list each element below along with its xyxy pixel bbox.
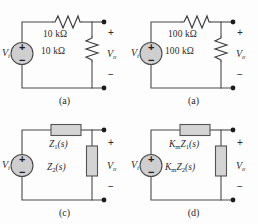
- source-minus-c: −: [19, 167, 25, 178]
- source-label-a: Vi: [2, 48, 10, 58]
- output-plus-a: +: [108, 28, 114, 38]
- output-plus-b: +: [237, 28, 243, 38]
- series-resistor-label-b: 100 kΩ: [168, 30, 197, 40]
- output-minus-b: −: [237, 70, 243, 80]
- source-minus-b: −: [148, 55, 154, 66]
- caption-d: (d): [129, 207, 258, 218]
- caption-b: (a): [129, 95, 258, 106]
- circuit-diagram-b: Vi + − 100 kΩ 100 kΩ + Vo − (a): [129, 0, 258, 112]
- source-plus-d: +: [148, 154, 154, 165]
- circuit-diagram-c: Vi + − Z1(s) Z2(s) + Vo − (c): [0, 112, 129, 224]
- output-minus-c: −: [108, 182, 114, 192]
- circuit-diagram-a: Vi + − 10 kΩ 10 kΩ + Vo − (a): [0, 0, 129, 112]
- source-plus-c: +: [19, 154, 25, 165]
- source-label-c: Vi: [2, 160, 10, 170]
- output-plus-d: +: [237, 138, 243, 148]
- output-minus-d: −: [237, 182, 243, 192]
- output-label-a: Vo: [107, 49, 116, 59]
- source-label-b: Vi: [131, 48, 139, 58]
- output-label-b: Vo: [236, 49, 245, 59]
- series-resistor-label-a: 10 kΩ: [43, 30, 67, 40]
- series-impedance-label-c: Z1(s): [49, 140, 68, 150]
- output-plus-c: +: [108, 138, 114, 148]
- shunt-impedance-label-c: Z2(s): [47, 163, 66, 173]
- series-impedance-label-d: KmZ1(s): [169, 140, 199, 150]
- source-minus-d: −: [148, 167, 154, 178]
- shunt-resistor-label-b: 100 kΩ: [165, 47, 194, 57]
- caption-c: (c): [0, 207, 129, 218]
- output-minus-a: −: [108, 70, 114, 80]
- source-label-d: Vi: [131, 160, 139, 170]
- caption-a: (a): [0, 95, 129, 106]
- source-plus-a: +: [19, 42, 25, 53]
- source-minus-a: −: [19, 55, 25, 66]
- shunt-impedance-label-d: KmZ2(s): [165, 163, 195, 173]
- circuit-diagram-d: Vi + − KmZ1(s) KmZ2(s) + Vo − (d): [129, 112, 258, 224]
- output-label-d: Vo: [236, 161, 245, 171]
- output-label-c: Vo: [107, 161, 116, 171]
- figure-sheet: Vi + − 10 kΩ 10 kΩ + Vo − (a) Vi + − 100…: [0, 0, 258, 224]
- shunt-resistor-label-a: 10 kΩ: [41, 47, 65, 57]
- source-plus-b: +: [148, 42, 154, 53]
